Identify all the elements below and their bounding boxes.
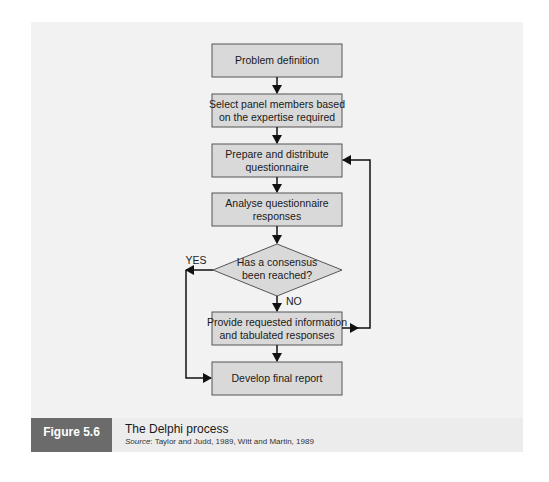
yes-label: YES <box>185 254 206 266</box>
svg-text:Develop final report: Develop final report <box>231 372 322 384</box>
svg-text:Provide requested information: Provide requested information <box>207 316 347 328</box>
edge-feedback-to-n3 <box>343 160 370 328</box>
node-final-report: Develop final report <box>212 362 342 395</box>
node-prepare-questionnaire: Prepare and distribute questionnaire <box>212 144 342 177</box>
figure-number: Figure 5.6 <box>31 418 112 452</box>
figure-caption: Figure 5.6 The Delphi process Source: Ta… <box>31 418 523 452</box>
delphi-flowchart: Problem definition Select panel members … <box>0 0 549 482</box>
node-provide-information: Provide requested information and tabula… <box>207 312 347 345</box>
node-problem-definition: Problem definition <box>212 44 342 77</box>
node-consensus-decision: Has a consensus been reached? <box>213 244 342 296</box>
source-text: : Taylor and Judd, 1989, Witt and Martin… <box>150 437 314 446</box>
svg-text:and tabulated responses: and tabulated responses <box>219 329 334 341</box>
svg-text:Analyse questionnaire: Analyse questionnaire <box>225 197 328 209</box>
node-analyse-responses: Analyse questionnaire responses <box>212 193 342 226</box>
svg-text:Has a consensus: Has a consensus <box>237 256 318 268</box>
svg-text:been reached?: been reached? <box>242 269 312 281</box>
figure-title: The Delphi process <box>125 422 228 436</box>
svg-text:Prepare and distribute: Prepare and distribute <box>225 148 328 160</box>
svg-text:questionnaire: questionnaire <box>245 161 308 173</box>
svg-text:Problem definition: Problem definition <box>235 54 319 66</box>
source-prefix: Source <box>125 437 150 446</box>
node-select-panel: Select panel members based on the expert… <box>209 94 345 127</box>
svg-text:on the expertise required: on the expertise required <box>219 111 335 123</box>
svg-text:Select panel members based: Select panel members based <box>209 98 345 110</box>
no-label: NO <box>286 295 302 307</box>
svg-text:responses: responses <box>253 210 301 222</box>
figure-source: Source: Taylor and Judd, 1989, Witt and … <box>125 437 314 446</box>
